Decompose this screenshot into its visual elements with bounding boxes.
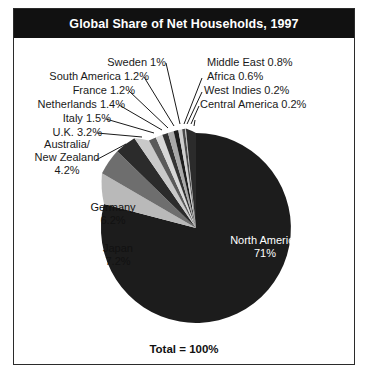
callout-label-australia-line1: Australia/ xyxy=(30,138,104,151)
leader-line-netherlands xyxy=(119,105,162,130)
slice-label-germany-name: Germany xyxy=(75,201,151,214)
slice-label-north-america: North America 71% xyxy=(213,234,317,260)
slice-label-north-america-value: 71% xyxy=(213,247,317,260)
callout-label-south-america: South America 1.2% xyxy=(49,70,149,83)
slice-label-japan-value: 7.2% xyxy=(87,255,149,268)
callout-label-italy: Italy 1.5% xyxy=(63,112,111,125)
slice-label-germany-value: 6.2% xyxy=(75,214,151,227)
callout-label-australia-line3: 4.2% xyxy=(30,164,104,177)
callout-label-middle-east: Middle East 0.8% xyxy=(207,56,293,69)
callout-label-west-indies: West Indies 0.2% xyxy=(204,84,289,97)
callout-label-australia-new-zealand: Australia/ New Zealand 4.2% xyxy=(30,138,104,177)
pie-chart-plot-area: Sweden 1% South America 1.2% France 1.2%… xyxy=(14,38,354,364)
chart-figure: Global Share of Net Households, 1997 xyxy=(13,8,355,365)
slice-label-japan: Japan 7.2% xyxy=(87,242,149,268)
leader-line-uk xyxy=(97,133,142,137)
callout-label-france: France 1.2% xyxy=(73,84,135,97)
slice-label-north-america-name: North America xyxy=(213,234,317,247)
leader-line-south-america xyxy=(144,77,174,126)
callout-label-sweden: Sweden 1% xyxy=(107,56,166,69)
leader-line-sweden xyxy=(166,63,180,124)
leader-line-central-america xyxy=(194,120,195,126)
pie-chart-svg xyxy=(14,38,353,364)
total-label: Total = 100% xyxy=(14,343,354,355)
chart-title-bar: Global Share of Net Households, 1997 xyxy=(14,9,354,38)
callout-label-africa: Africa 0.6% xyxy=(207,70,263,83)
callout-label-australia-line2: New Zealand xyxy=(30,151,104,164)
slice-label-germany: Germany 6.2% xyxy=(75,201,151,227)
callout-label-netherlands: Netherlands 1.4% xyxy=(38,98,125,111)
slice-label-japan-name: Japan xyxy=(87,242,149,255)
page-title: Global Share of Net Households, 1997 xyxy=(69,17,298,31)
callout-label-central-america: Central America 0.2% xyxy=(200,98,306,111)
